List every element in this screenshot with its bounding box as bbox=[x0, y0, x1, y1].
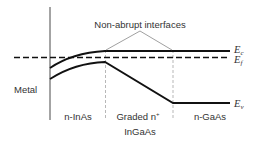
n-gaas-label: n-GaAs bbox=[194, 111, 226, 122]
valence-band-line bbox=[50, 62, 230, 103]
graded-label: Graded n+ bbox=[116, 111, 160, 122]
ev-label: Ev bbox=[233, 98, 244, 111]
ingaas-label: InGaAs bbox=[124, 126, 156, 137]
band-diagram: Non-abrupt interfaces Ec Ef Ev Metal n-I… bbox=[0, 0, 261, 144]
annotation-leader-2 bbox=[140, 31, 172, 50]
conduction-band-line bbox=[50, 51, 230, 68]
n-inas-label: n-InAs bbox=[64, 111, 92, 122]
metal-label: Metal bbox=[14, 84, 37, 95]
annotation-leader-1 bbox=[106, 31, 140, 50]
non-abrupt-interfaces-label: Non-abrupt interfaces bbox=[94, 19, 186, 30]
